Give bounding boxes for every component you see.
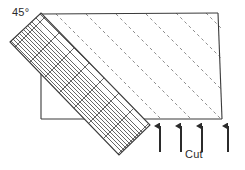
dashed-pass-line (206, 13, 222, 29)
angled-cut-diagram (0, 0, 245, 170)
tool-band-body (10, 13, 150, 155)
angle-label: 45° (12, 6, 29, 18)
tool-band (0, 2, 151, 161)
cut-label: Cut (185, 148, 203, 160)
dashed-pass-line (116, 14, 221, 119)
dashed-pass-line (176, 13, 222, 59)
workpiece-right-edge (218, 13, 222, 119)
workpiece-top-edge (40, 13, 218, 14)
dashed-pass-line (146, 14, 222, 90)
